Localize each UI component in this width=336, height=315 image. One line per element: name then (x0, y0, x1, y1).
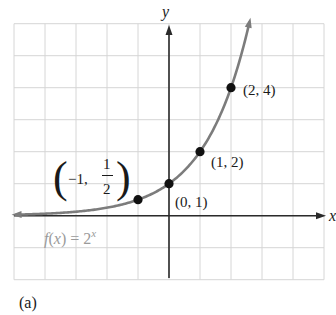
left-paren: ( (53, 153, 68, 202)
fraction-denominator: 2 (103, 181, 111, 197)
label-x-value: −1, (68, 171, 88, 187)
fraction-numerator: 1 (103, 156, 111, 172)
function-label: f(x) = 2x (44, 227, 96, 248)
y-axis-arrow-icon (166, 25, 173, 35)
right-paren: ) (116, 153, 131, 202)
curve-right-arrow-icon (245, 18, 252, 29)
subfigure-label: (a) (19, 294, 37, 312)
function-exponent: x (90, 227, 96, 239)
point-label-2-4: (2, 4) (243, 82, 276, 99)
y-axis-label: y (160, 3, 170, 21)
point-label-0-1: (0, 1) (175, 194, 208, 211)
exponential-graph: x y ( −1, 1 2 ) (0, 1) (1, 2) (2, 4) f(x… (0, 0, 336, 315)
data-point (226, 83, 235, 92)
x-axis-label: x (328, 207, 336, 224)
data-points (133, 83, 235, 204)
data-point (195, 147, 204, 156)
point-label-neg1-half: ( −1, 1 2 ) (53, 153, 131, 202)
point-label-1-2: (1, 2) (211, 154, 244, 171)
data-point (164, 179, 173, 188)
curve-left-arrow-icon (12, 211, 22, 218)
data-point (133, 195, 142, 204)
function-curve (16, 22, 250, 215)
